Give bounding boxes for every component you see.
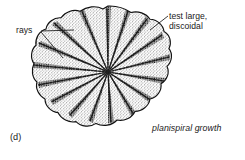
caption-planispiral-growth: planispiral growth bbox=[152, 124, 221, 134]
annotation-rays: rays bbox=[16, 26, 32, 36]
figure-panel-d: rays test large,discoidal planispiral gr… bbox=[0, 0, 245, 160]
figure-letter: (d) bbox=[10, 133, 21, 143]
annotation-test-large-discoidal: test large,discoidal bbox=[169, 12, 207, 31]
foraminifera-illustration bbox=[0, 0, 245, 160]
annotation-test-large-line2: discoidal bbox=[169, 21, 203, 31]
annotation-test-large-line1: test large, bbox=[169, 11, 207, 21]
